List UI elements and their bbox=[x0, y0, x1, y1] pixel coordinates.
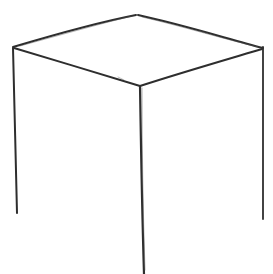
cube-legs bbox=[13, 47, 263, 274]
edge-left-front bbox=[14, 48, 140, 86]
cube-sketch bbox=[0, 0, 273, 274]
edge-left-leg bbox=[13, 48, 17, 213]
sketch-canvas bbox=[0, 0, 273, 274]
pencil-texture bbox=[20, 16, 258, 270]
cube-top-face bbox=[13, 15, 263, 86]
edge-front-right bbox=[140, 49, 262, 86]
